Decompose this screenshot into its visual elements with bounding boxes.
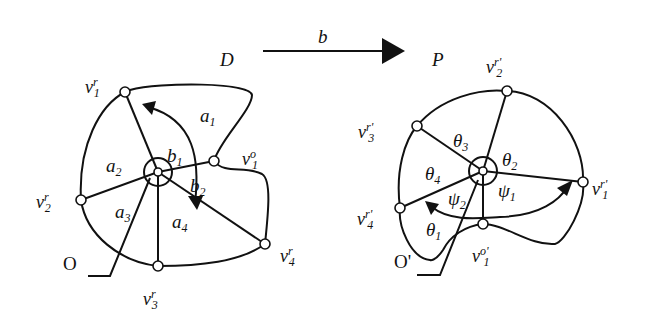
transform-arrow: b <box>263 26 405 64</box>
diagram-canvas: b D vr1 vo1 vr2 vr3 vr4 a1 <box>0 0 655 331</box>
origin-label: O' <box>394 251 411 272</box>
vertex-v1o <box>209 156 219 166</box>
angle-theta1: θ1 <box>426 219 441 243</box>
label-v1r: vr1 <box>85 75 100 100</box>
label-v4r: vr'4 <box>357 207 373 232</box>
label-v2r: vr'2 <box>486 55 502 80</box>
vertex-v1o <box>478 219 488 229</box>
center-vertex <box>479 167 487 175</box>
vertex-v3r <box>412 121 422 131</box>
angle-a2: a2 <box>106 155 122 179</box>
vertex-v2r <box>76 195 86 205</box>
vertex-v4r <box>395 203 405 213</box>
angle-theta2: θ2 <box>502 149 517 173</box>
origin-leader-line <box>88 178 150 276</box>
angle-a3: a3 <box>115 201 131 225</box>
arrow-head-icon <box>142 101 156 115</box>
label-v1o: vo1 <box>242 147 258 172</box>
angle-a1: a1 <box>200 105 216 129</box>
angle-b2: b2 <box>190 175 206 199</box>
arrow-head-icon <box>557 180 573 196</box>
center-vertex <box>154 168 162 176</box>
vertex-v1r <box>120 87 130 97</box>
angle-b1: b1 <box>167 145 183 169</box>
arrow-head-icon <box>425 201 439 215</box>
label-v1r: vr'1 <box>592 177 608 202</box>
arrow-head-icon <box>382 38 405 64</box>
angle-psi1: ψ1 <box>498 180 516 204</box>
label-v3r: vr3 <box>143 287 158 312</box>
angle-theta4: θ4 <box>425 163 440 187</box>
label-v4r: vr4 <box>280 244 295 269</box>
vertex-v1r <box>578 177 588 187</box>
region-d: D vr1 vo1 vr2 vr3 vr4 a1 a2 a3 <box>36 49 295 312</box>
label-v3r: vr'3 <box>358 120 374 145</box>
label-v1o: vo'1 <box>472 244 490 269</box>
vertex-v2r <box>502 86 512 96</box>
vertex-v4r <box>260 239 270 249</box>
angle-theta3: θ3 <box>453 130 468 154</box>
spoke-v4r <box>158 172 265 244</box>
angle-psi2: ψ2 <box>448 188 466 212</box>
region-d-label: D <box>219 49 234 70</box>
origin-label: O <box>63 253 77 274</box>
vertex-v3r <box>153 261 163 271</box>
region-p: P vr'2 vr'3 vr'4 vo'1 vr'1 θ3 θ2 θ4 <box>357 49 608 275</box>
region-p-label: P <box>431 49 444 70</box>
label-v2r: vr2 <box>36 190 51 215</box>
transform-label: b <box>318 26 328 47</box>
angle-a4: a4 <box>172 211 188 235</box>
